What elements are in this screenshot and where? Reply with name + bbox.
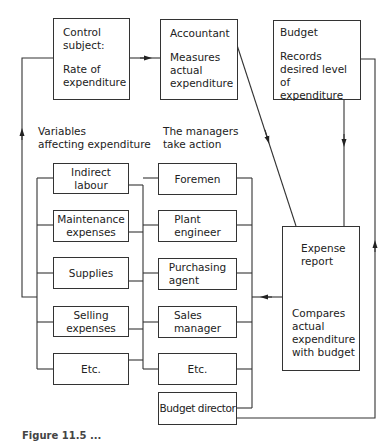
control-subject-title: Control subject: bbox=[63, 26, 129, 52]
budget-title: Budget bbox=[280, 26, 360, 39]
accountant-body: Measures actual expenditure bbox=[170, 51, 237, 90]
variables-header: Variables affecting expenditure bbox=[38, 125, 151, 151]
expense-report-title: Expense report bbox=[301, 242, 346, 268]
variable-box-supplies: Supplies bbox=[53, 257, 129, 289]
control-subject-box: Control subject: Rate of expenditure bbox=[53, 18, 130, 100]
expense-report-box: Expense report Compares actual expenditu… bbox=[282, 226, 360, 371]
variable-label: Supplies bbox=[69, 267, 113, 280]
budget-body: Records desired level of expenditure bbox=[280, 50, 360, 102]
control-subject-body: Rate of expenditure bbox=[63, 63, 129, 89]
manager-label: Sales manager bbox=[174, 309, 221, 335]
manager-box-sales-manager: Sales manager bbox=[158, 306, 237, 338]
manager-box-plant-engineer: Plant engineer bbox=[158, 210, 237, 242]
manager-label: Etc. bbox=[188, 363, 208, 376]
manager-label: Plant engineer bbox=[174, 213, 221, 239]
variable-box-selling-expenses: Selling expenses bbox=[53, 306, 129, 337]
figure-caption: Figure 11.5 ... bbox=[22, 430, 101, 441]
variable-box-etc: Etc. bbox=[53, 353, 129, 385]
manager-label: Purchasing agent bbox=[169, 261, 226, 287]
managers-header: The managers take action bbox=[163, 125, 239, 151]
manager-box-etc: Etc. bbox=[158, 353, 237, 385]
variable-box-maintenance-expenses: Maintenance expenses bbox=[53, 210, 129, 242]
variable-box-indirect-labour: Indirect labour bbox=[53, 163, 129, 194]
manager-box-purchasing-agent: Purchasing agent bbox=[158, 258, 237, 290]
manager-label: Foremen bbox=[175, 173, 221, 186]
variable-label: Indirect labour bbox=[71, 166, 111, 192]
manager-label: Budget director bbox=[160, 402, 236, 415]
accountant-title: Accountant bbox=[170, 27, 237, 40]
variable-label: Maintenance expenses bbox=[57, 213, 125, 239]
variable-label: Etc. bbox=[81, 363, 101, 376]
manager-box-budget-director: Budget director bbox=[158, 392, 237, 425]
budget-box: Budget Records desired level of expendit… bbox=[273, 20, 361, 100]
accountant-box: Accountant Measures actual expenditure bbox=[160, 19, 238, 100]
variable-label: Selling expenses bbox=[66, 309, 116, 335]
expense-report-body: Compares actual expenditure with budget bbox=[292, 307, 355, 359]
manager-box-foremen: Foremen bbox=[158, 163, 237, 195]
